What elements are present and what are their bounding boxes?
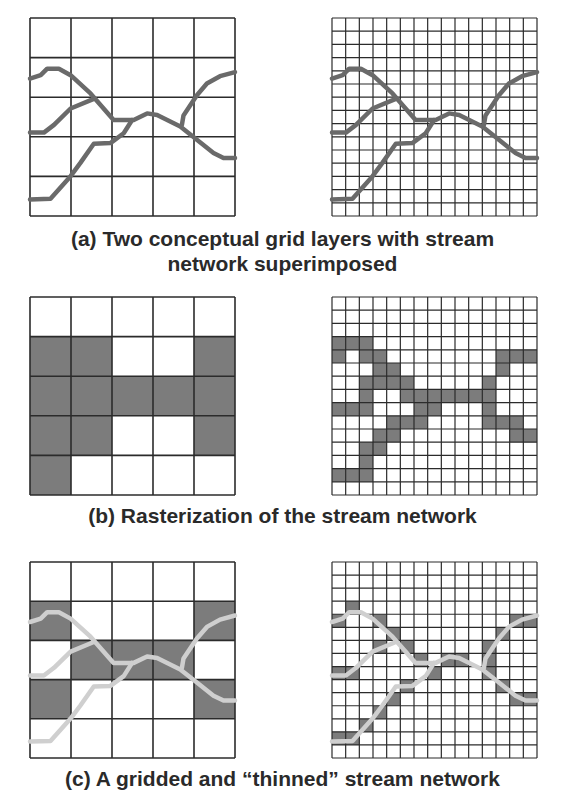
caption-b: (b) Rasterization of the stream network xyxy=(0,503,565,528)
stream-line xyxy=(30,99,94,133)
raster-cell xyxy=(400,376,414,389)
caption-b-text: (b) Rasterization of the stream network xyxy=(0,503,565,528)
panel-b-fine-raster xyxy=(332,297,537,495)
raster-cell xyxy=(30,376,71,416)
raster-cell xyxy=(373,350,387,363)
raster-cell xyxy=(346,337,360,350)
stream-line xyxy=(484,72,537,125)
raster-cell xyxy=(332,337,346,350)
raster-cell xyxy=(359,337,373,350)
raster-cell xyxy=(359,389,373,402)
stream-line xyxy=(332,69,537,158)
raster-cell xyxy=(30,680,71,719)
raster-cell xyxy=(30,337,71,377)
raster-cell xyxy=(359,469,373,482)
raster-cell xyxy=(373,376,387,389)
panel-c-fine-thinned-grid xyxy=(332,562,537,758)
raster-cell xyxy=(194,376,235,416)
raster-cell xyxy=(346,403,360,416)
raster-cell xyxy=(112,376,153,416)
caption-a: (a) Two conceptual grid layers with stre… xyxy=(0,226,565,276)
raster-cell xyxy=(387,376,401,389)
grid-svg xyxy=(30,297,235,495)
raster-cell xyxy=(71,337,112,377)
raster-cell xyxy=(359,442,373,455)
raster-cell xyxy=(428,403,442,416)
raster-cell xyxy=(359,455,373,468)
raster-cell xyxy=(523,350,537,363)
stream-line xyxy=(182,72,235,125)
raster-cell xyxy=(373,363,387,376)
raster-cell xyxy=(71,640,112,679)
raster-cell xyxy=(510,416,524,429)
raster-cell xyxy=(510,429,524,442)
raster-cell xyxy=(332,403,346,416)
raster-cell xyxy=(482,389,496,402)
raster-cell xyxy=(387,363,401,376)
raster-cell xyxy=(496,363,510,376)
panel-c-coarse-thinned-grid xyxy=(30,562,235,758)
raster-cell xyxy=(373,429,387,442)
raster-cell xyxy=(496,416,510,429)
grid-svg xyxy=(332,562,537,758)
raster-cell xyxy=(71,416,112,456)
stream-line xyxy=(30,69,235,158)
caption-a-line1: (a) Two conceptual grid layers with stre… xyxy=(0,226,565,251)
raster-cell xyxy=(414,416,428,429)
grid-svg xyxy=(30,562,235,758)
raster-cell xyxy=(400,389,414,402)
raster-cell xyxy=(332,469,346,482)
raster-cell xyxy=(469,389,483,402)
caption-a-line2: network superimposed xyxy=(0,251,565,276)
raster-cell xyxy=(428,389,442,402)
panel-b-coarse-raster xyxy=(30,297,235,495)
raster-cell xyxy=(30,455,71,495)
raster-cell xyxy=(153,376,194,416)
grid-svg xyxy=(332,297,537,495)
raster-cell xyxy=(482,416,496,429)
caption-c: (c) A gridded and “thinned” stream netwo… xyxy=(0,766,565,791)
raster-cell xyxy=(30,416,71,456)
raster-cell xyxy=(387,429,401,442)
raster-cell xyxy=(400,416,414,429)
raster-cell xyxy=(71,376,112,416)
raster-cell xyxy=(359,376,373,389)
raster-cell xyxy=(112,640,153,679)
raster-cell xyxy=(482,403,496,416)
grid-svg xyxy=(30,18,235,216)
raster-cell xyxy=(414,389,428,402)
raster-cell xyxy=(387,416,401,429)
raster-cell xyxy=(441,389,455,402)
raster-cell xyxy=(373,442,387,455)
raster-cell xyxy=(194,337,235,377)
raster-cell xyxy=(482,376,496,389)
raster-cell xyxy=(414,403,428,416)
raster-cell xyxy=(194,416,235,456)
raster-cell xyxy=(332,350,346,363)
panel-a-fine-grid-with-streams xyxy=(332,18,537,216)
raster-cell xyxy=(496,350,510,363)
raster-cell xyxy=(523,429,537,442)
raster-cell xyxy=(359,403,373,416)
grid-svg xyxy=(332,18,537,216)
raster-cell xyxy=(455,389,469,402)
caption-c-text: (c) A gridded and “thinned” stream netwo… xyxy=(0,766,565,791)
raster-cell xyxy=(359,350,373,363)
stream-line xyxy=(332,612,537,700)
panel-a-coarse-grid-with-streams xyxy=(30,18,235,216)
raster-cell xyxy=(346,469,360,482)
raster-cell xyxy=(510,350,524,363)
